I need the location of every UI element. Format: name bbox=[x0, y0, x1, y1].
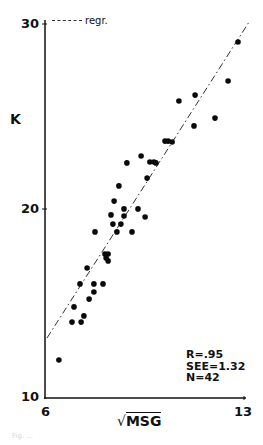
y-tick-label-10: 10 bbox=[9, 389, 39, 404]
y-tick-label-20: 20 bbox=[9, 201, 39, 216]
data-point bbox=[135, 206, 141, 212]
data-point bbox=[235, 39, 241, 45]
data-point bbox=[118, 221, 124, 227]
stat-r: R=.95 bbox=[186, 349, 245, 361]
data-point bbox=[110, 221, 116, 227]
data-point bbox=[191, 123, 197, 129]
data-point bbox=[86, 296, 92, 302]
data-point bbox=[71, 304, 77, 310]
data-point bbox=[121, 213, 127, 219]
legend-label: regr. bbox=[85, 15, 108, 26]
data-point bbox=[129, 229, 135, 235]
data-point bbox=[153, 160, 159, 166]
axes bbox=[42, 20, 246, 400]
data-point bbox=[78, 319, 84, 325]
x-axis-title: √MSG bbox=[117, 413, 161, 429]
data-point bbox=[77, 281, 83, 287]
data-point bbox=[100, 281, 106, 287]
data-point bbox=[105, 258, 111, 264]
data-point bbox=[69, 319, 75, 325]
data-point bbox=[81, 313, 87, 319]
data-point bbox=[91, 289, 97, 295]
data-point bbox=[124, 160, 130, 166]
legend: regr. bbox=[52, 15, 108, 26]
data-point bbox=[84, 265, 90, 271]
legend-dashdot-swatch bbox=[52, 20, 82, 21]
data-point bbox=[91, 281, 97, 287]
data-point bbox=[176, 98, 182, 104]
figure-caption: Fig. ... bbox=[12, 432, 33, 440]
x-tick-label-6: 6 bbox=[41, 404, 50, 419]
data-point bbox=[116, 183, 122, 189]
data-point bbox=[114, 229, 120, 235]
data-point bbox=[56, 357, 62, 363]
stat-n: N=42 bbox=[186, 372, 245, 384]
data-point bbox=[225, 78, 231, 84]
data-point bbox=[138, 153, 144, 159]
data-point bbox=[108, 212, 114, 218]
data-point bbox=[144, 175, 150, 181]
y-tick-label-30: 30 bbox=[9, 16, 39, 31]
data-point bbox=[192, 92, 198, 98]
data-point bbox=[142, 214, 148, 220]
data-points bbox=[56, 39, 241, 363]
x-tick-label-13: 13 bbox=[234, 404, 252, 419]
sqrt-symbol: √ bbox=[117, 413, 126, 429]
data-point bbox=[92, 229, 98, 235]
stats-annotation: R=.95 SEE=1.32 N=42 bbox=[186, 349, 245, 384]
data-point bbox=[121, 206, 127, 212]
x-axis-title-text: MSG bbox=[126, 412, 162, 429]
data-point bbox=[111, 198, 117, 204]
data-point bbox=[212, 115, 218, 121]
y-axis-title: K bbox=[10, 111, 21, 127]
data-point bbox=[169, 139, 175, 145]
